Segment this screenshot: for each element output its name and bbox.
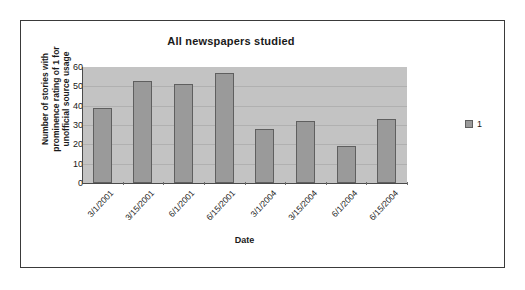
y-axis-tick-20: 20 — [61, 139, 83, 149]
plot-area — [82, 67, 407, 183]
x-axis-tick-labels: 3/1/20013/15/20016/1/20016/15/20013/1/20… — [82, 185, 407, 231]
bar-6/15/2004[interactable] — [377, 119, 396, 183]
x-axis-tick-mark — [326, 182, 327, 185]
y-axis-tick-10: 10 — [61, 159, 83, 169]
y-axis-title-line-2: prominence rating of 1 for — [50, 46, 61, 151]
x-axis-tick-mark — [163, 182, 164, 185]
y-axis-tick-labels: 6050403020100 — [61, 67, 83, 183]
x-axis-tick-6/15/2001: 6/15/2001 — [204, 188, 237, 222]
legend-swatch-icon — [465, 120, 473, 128]
bar-slot — [326, 67, 367, 183]
bar-slot — [245, 67, 286, 183]
chart-title: All newspapers studied — [21, 35, 441, 47]
bar-3/15/2004[interactable] — [296, 121, 315, 183]
bar-6/1/2001[interactable] — [174, 84, 193, 183]
x-axis-tick-mark — [285, 182, 286, 185]
x-axis-tick-3/1/2004: 3/1/2004 — [248, 188, 278, 219]
x-axis-tick-mark — [204, 182, 205, 185]
x-axis-tick-mark — [366, 182, 367, 185]
y-axis-tick-0: 0 — [61, 178, 83, 188]
bar-slot — [204, 67, 245, 183]
y-axis-line — [82, 67, 83, 184]
x-axis-tick-6/1/2001: 6/1/2001 — [167, 188, 197, 219]
x-axis-tick-mark — [407, 182, 408, 185]
legend-label: 1 — [477, 119, 482, 129]
bar-slot — [366, 67, 407, 183]
chart-frame: All newspapers studied Number of stories… — [20, 20, 505, 268]
bar-3/1/2001[interactable] — [93, 108, 112, 183]
bar-slot — [82, 67, 123, 183]
bar-3/15/2001[interactable] — [133, 81, 152, 183]
x-axis-tick-mark — [245, 182, 246, 185]
bar-slot — [163, 67, 204, 183]
x-axis-tick-6/15/2004: 6/15/2004 — [367, 188, 400, 222]
x-axis-title: Date — [82, 235, 407, 245]
y-axis-tick-40: 40 — [61, 101, 83, 111]
y-axis-tick-60: 60 — [61, 62, 83, 72]
bar-series — [82, 67, 407, 183]
y-axis-title-line-1: Number of stories with — [40, 53, 51, 145]
bar-slot — [123, 67, 164, 183]
bar-3/1/2004[interactable] — [255, 129, 274, 183]
chart-legend: 1 — [465, 119, 482, 129]
y-axis-tick-30: 30 — [61, 120, 83, 130]
x-axis-tick-3/15/2001: 3/15/2001 — [123, 188, 156, 222]
x-axis-tick-3/15/2004: 3/15/2004 — [286, 188, 319, 222]
x-axis-tick-mark — [123, 182, 124, 185]
x-axis-tick-3/1/2001: 3/1/2001 — [86, 188, 116, 219]
bar-6/15/2001[interactable] — [215, 73, 234, 183]
y-axis-tick-50: 50 — [61, 81, 83, 91]
bar-6/1/2004[interactable] — [337, 146, 356, 183]
x-axis-tick-6/1/2004: 6/1/2004 — [329, 188, 359, 219]
bar-slot — [285, 67, 326, 183]
